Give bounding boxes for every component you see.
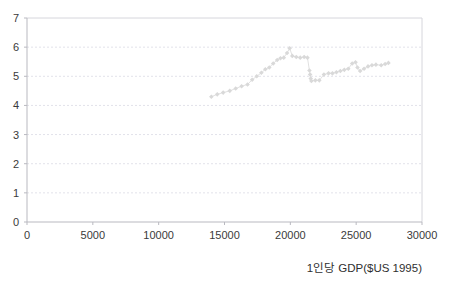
y-axis-ticks: 01234567 — [13, 12, 27, 228]
x-axis-ticks: 050001000015000200002500030000 — [24, 222, 437, 241]
x-tick-label: 30000 — [407, 229, 438, 241]
y-tick-label: 4 — [13, 99, 19, 111]
x-axis-title: 1인당 GDP($US 1995) — [307, 262, 422, 274]
y-tick-label: 7 — [13, 12, 19, 24]
x-tick-label: 15000 — [209, 229, 240, 241]
x-tick-label: 0 — [24, 229, 30, 241]
x-tick-label: 5000 — [81, 229, 105, 241]
x-tick-label: 25000 — [341, 229, 372, 241]
x-tick-label: 10000 — [143, 229, 174, 241]
y-tick-label: 1 — [13, 187, 19, 199]
y-tick-label: 2 — [13, 158, 19, 170]
plot-background — [27, 18, 422, 222]
y-tick-label: 5 — [13, 70, 19, 82]
x-tick-label: 20000 — [275, 229, 306, 241]
scatter-chart: 01234567 050001000015000200002500030000 … — [0, 0, 452, 286]
chart-container: 01234567 050001000015000200002500030000 … — [0, 0, 452, 286]
y-tick-label: 0 — [13, 216, 19, 228]
y-tick-label: 6 — [13, 41, 19, 53]
y-tick-label: 3 — [13, 129, 19, 141]
